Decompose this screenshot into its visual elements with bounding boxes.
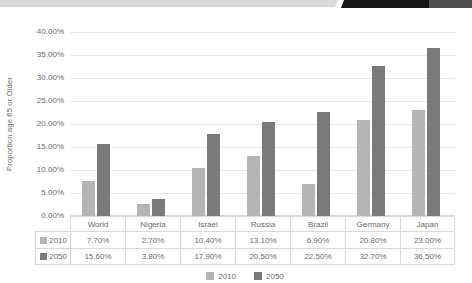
table-category-header: Germany [345,216,400,232]
banner-segment-dark [429,0,472,8]
series-swatch-2050 [40,253,47,260]
series-label: 2050 [49,252,67,261]
table-value-cell: 20.80% [345,232,400,248]
table-corner-cell [35,216,70,232]
table-category-header: Israel [180,216,235,232]
bar-2010-israel [192,168,205,216]
legend: 20102050 [35,270,455,282]
table-series-header: 2050 [35,249,70,265]
bar-2010-nigeria [137,204,150,216]
gridline [70,32,455,33]
top-banner [0,0,472,9]
y-tick-label: 25.00% [37,96,64,106]
table-value-cell: 32.70% [345,249,400,265]
legend-label: 2050 [266,272,284,281]
bar-2010-japan [412,110,425,216]
table-value-cell: 36.50% [400,249,455,265]
table-value-cell: 2.70% [125,232,180,248]
gridline [70,78,455,79]
gridline [70,101,455,102]
bar-2010-germany [357,120,370,216]
bar-2050-world [97,144,110,216]
table-category-header: Nigeria [125,216,180,232]
bar-2010-world [82,181,95,216]
plot-area [70,32,455,216]
legend-item-2010: 2010 [206,272,236,281]
table-value-cell: 10.40% [180,232,235,248]
bar-2010-brazil [302,184,315,216]
y-tick-label: 10.00% [37,165,64,175]
table-value-cell: 20.50% [235,249,290,265]
y-tick-label: 30.00% [37,73,64,83]
y-tick-label: 40.00% [37,27,64,37]
gridline [70,55,455,56]
bar-2050-germany [372,66,385,216]
chart-slide: Proportion age 65 or Older 40.00%35.00%3… [0,0,472,283]
legend-item-2050: 2050 [254,272,284,281]
table-value-cell: 23.00% [400,232,455,248]
table-value-cell: 7.70% [70,232,125,248]
table-category-header: Brazil [290,216,345,232]
data-table: WorldNigeriaIsraelRussiaBrazilGermanyJap… [35,216,455,265]
y-tick-label: 15.00% [37,142,64,152]
y-tick-label: 35.00% [37,50,64,60]
bar-2050-japan [427,48,440,216]
table-value-cell: 3.80% [125,249,180,265]
legend-swatch-2050 [254,272,262,280]
y-tick-label: 20.00% [37,119,64,129]
table-value-cell: 15.60% [70,249,125,265]
series-swatch-2010 [40,237,47,244]
bar-2050-israel [207,134,220,216]
legend-swatch-2010 [206,272,214,280]
series-label: 2010 [49,236,67,245]
table-value-cell: 13.10% [235,232,290,248]
table-series-header: 2010 [35,232,70,248]
table-category-header: World [70,216,125,232]
bar-2050-nigeria [152,199,165,216]
table-category-header: Japan [400,216,455,232]
table-category-header: Russia [235,216,290,232]
legend-label: 2010 [218,272,236,281]
banner-segment-black [341,0,429,8]
table-value-cell: 6.90% [290,232,345,248]
table-value-cell: 17.90% [180,249,235,265]
bar-2010-russia [247,156,260,216]
bar-2050-russia [262,122,275,216]
table-value-cell: 22.50% [290,249,345,265]
y-tick-label: 5.00% [41,188,64,198]
bar-2050-brazil [317,112,330,216]
